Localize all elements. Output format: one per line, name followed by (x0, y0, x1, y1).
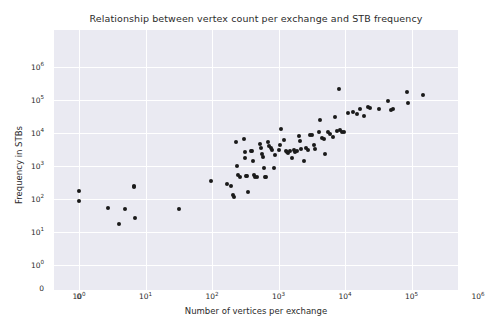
gridline-vertical (345, 30, 346, 290)
scatter-point (313, 147, 317, 151)
scatter-point (177, 207, 181, 211)
scatter-point (279, 127, 283, 131)
y-tick-label: 0 (0, 284, 44, 293)
scatter-point (297, 134, 301, 138)
scatter-point (235, 164, 239, 168)
scatter-point (250, 149, 254, 153)
scatter-point (106, 206, 110, 210)
scatter-point (282, 138, 286, 142)
scatter-point (273, 153, 277, 157)
scatter-point (77, 199, 81, 203)
scatter-point (255, 175, 259, 179)
gridline-vertical (412, 30, 413, 290)
scatter-point (318, 118, 322, 122)
gridline-horizontal (54, 232, 458, 233)
x-axis-label: Number of vertices per exchange (54, 306, 458, 316)
scatter-point (209, 179, 213, 183)
gridline-horizontal (54, 265, 458, 266)
scatter-point (406, 101, 410, 105)
gridline-horizontal (54, 133, 458, 134)
scatter-point (368, 106, 372, 110)
scatter-point (132, 185, 136, 189)
scatter-point (278, 143, 282, 147)
y-tick-label: 100 (0, 261, 44, 270)
scatter-point (310, 133, 314, 137)
x-tick-label: 100 (72, 292, 85, 301)
gridline-vertical (478, 30, 479, 290)
gridline-vertical (279, 30, 280, 290)
scatter-point (77, 189, 81, 193)
chart-title: Relationship between vertex count per ex… (54, 13, 458, 24)
scatter-point (246, 190, 250, 194)
scatter-point (232, 195, 236, 199)
scatter-point (238, 175, 242, 179)
scatter-point (386, 99, 390, 103)
scatter-point (234, 140, 238, 144)
scatter-point (264, 175, 268, 179)
scatter-point (355, 112, 359, 116)
scatter-point (299, 147, 303, 151)
x-tick-label: 103 (272, 292, 285, 301)
scatter-point (245, 174, 249, 178)
scatter-point (306, 148, 310, 152)
y-axis-label: Frequency in STBs (14, 100, 24, 230)
x-tick-label: 106 (471, 292, 484, 301)
scatter-point (323, 152, 327, 156)
scatter-point (333, 115, 337, 119)
scatter-point (243, 150, 247, 154)
scatter-point (262, 166, 266, 170)
scatter-point (421, 93, 425, 97)
scatter-point (270, 148, 274, 152)
scatter-point (298, 139, 302, 143)
scatter-point (261, 155, 265, 159)
scatter-point (242, 137, 246, 141)
gridline-horizontal (54, 67, 458, 68)
x-tick-label: 101 (139, 292, 152, 301)
scatter-point (346, 111, 350, 115)
scatter-point (391, 107, 395, 111)
gridline-horizontal (54, 100, 458, 101)
gridline-horizontal (54, 166, 458, 167)
scatter-point (277, 148, 281, 152)
y-tick-label: 106 (0, 63, 44, 72)
x-tick-label: 102 (205, 292, 218, 301)
scatter-point (243, 156, 247, 160)
x-tick-label: 105 (405, 292, 418, 301)
scatter-point (358, 107, 362, 111)
scatter-point (331, 135, 335, 139)
scatter-point (302, 159, 306, 163)
scatter-point (342, 130, 346, 134)
scatter-point (133, 216, 137, 220)
scatter-point (290, 156, 294, 160)
plot-area (54, 30, 458, 290)
scatter-point (259, 146, 263, 150)
scatter-point (351, 110, 355, 114)
scatter-point (272, 166, 276, 170)
scatter-point (377, 107, 381, 111)
scatter-point (362, 114, 366, 118)
scatter-point (317, 130, 321, 134)
scatter-point (117, 222, 121, 226)
gridline-vertical (212, 30, 213, 290)
scatter-point (123, 207, 127, 211)
scatter-point (251, 159, 255, 163)
scatter-point (229, 184, 233, 188)
gridline-vertical (79, 30, 80, 290)
scatter-point (337, 87, 341, 91)
scatter-point (405, 90, 409, 94)
gridline-horizontal (54, 199, 458, 200)
x-tick-label: 104 (338, 292, 351, 301)
gridline-vertical (146, 30, 147, 290)
scatter-point (322, 137, 326, 141)
